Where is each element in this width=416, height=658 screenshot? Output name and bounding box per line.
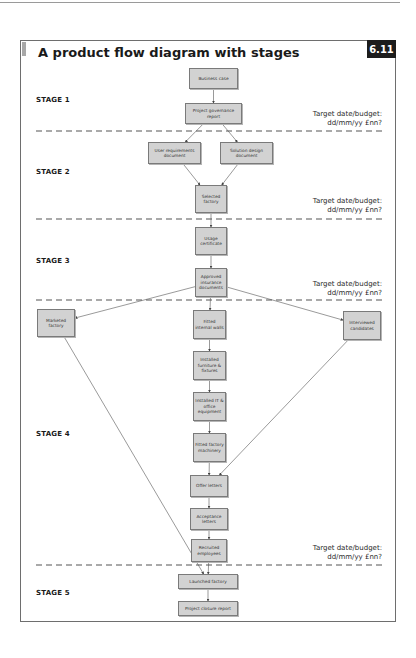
target-note-label: Target date/budget:	[313, 110, 382, 119]
node-business-case: Business case	[189, 68, 238, 89]
target-note-label: Target date/budget:	[313, 197, 382, 206]
target-note-label: Target date/budget:	[313, 280, 382, 289]
node-installed-furniture-fixtures: Installed furniture & fixtures	[193, 351, 226, 380]
node-launched-factory: Launched factory	[178, 574, 238, 589]
node-user-requirements-document: User requirements document	[148, 142, 201, 164]
target-note-3: Target date/budget: dd/mm/yy £nn?	[313, 280, 382, 298]
target-note-2: Target date/budget: dd/mm/yy £nn?	[313, 197, 382, 215]
node-solution-design-document: Solution design document	[220, 142, 273, 164]
stage-label-4: STAGE 4	[36, 430, 70, 438]
node-approved-insurance-documents: Approved insurance documents	[195, 268, 227, 297]
target-note-4: Target date/budget: dd/mm/yy £nn?	[313, 544, 382, 562]
node-installed-it-office-equipment: Installed IT & office equipment	[193, 392, 226, 421]
node-project-governance-report: Project governance report	[185, 103, 242, 124]
node-usage-certificate: Usage certificate	[195, 227, 227, 255]
node-selected-factory: Selected factory	[195, 185, 227, 213]
node-project-closure-report: Project closure report	[178, 601, 238, 616]
node-marketed-factory: Marketed factory	[37, 309, 75, 337]
target-note-1: Target date/budget: dd/mm/yy £nn?	[313, 110, 382, 128]
node-recruited-employees: Recruited employees	[191, 539, 227, 562]
figure-number-badge: 6.11	[367, 40, 396, 58]
figure-title: A product flow diagram with stages	[38, 45, 300, 60]
target-note-label: Target date/budget:	[313, 544, 382, 553]
target-note-value: dd/mm/yy £nn?	[313, 289, 382, 298]
node-acceptance-letters: Acceptance letters	[190, 508, 228, 530]
page-top-rule	[0, 2, 400, 3]
stage-label-5: STAGE 5	[36, 589, 70, 597]
stage-label-1: STAGE 1	[36, 96, 70, 104]
node-fitted-internal-walls: Fitted internal walls	[193, 310, 226, 339]
target-note-value: dd/mm/yy £nn?	[313, 119, 382, 128]
target-note-value: dd/mm/yy £nn?	[313, 553, 382, 562]
node-interviewed-candidates: Interviewed candidates	[343, 311, 381, 340]
node-offer-letters: Offer letters	[190, 475, 228, 497]
target-note-value: dd/mm/yy £nn?	[313, 206, 382, 215]
stage-label-3: STAGE 3	[36, 257, 70, 265]
stage-label-2: STAGE 2	[36, 168, 70, 176]
title-accent-bar	[22, 42, 26, 56]
node-fitted-factory-machinery: Fitted factory machinery	[193, 433, 226, 462]
